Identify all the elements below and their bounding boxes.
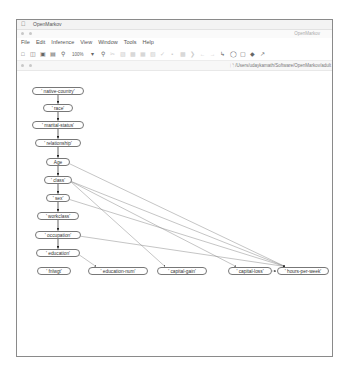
paste-icon[interactable]: ▩ <box>130 51 136 57</box>
apple-icon[interactable]:  <box>21 20 26 29</box>
node-hours-per-week[interactable]: ' hours-per-week' <box>277 267 329 275</box>
menu-view[interactable]: View <box>77 38 95 47</box>
zoom-out-icon[interactable]: ⚲ <box>60 51 66 57</box>
close-network-button[interactable] <box>21 64 24 67</box>
menu-window[interactable]: Window <box>95 38 121 47</box>
node-capital-loss[interactable]: ' capital-loss' <box>228 267 272 275</box>
menu-tools[interactable]: Tools <box>121 38 140 47</box>
menu-bar: File Edit Inference View Window Tools He… <box>17 38 332 47</box>
grid-icon[interactable]: ▧ <box>150 51 156 57</box>
node-sex[interactable]: ' sex' <box>46 194 70 202</box>
menu-edit[interactable]: Edit <box>33 38 48 47</box>
node-education[interactable]: ' education' <box>36 249 80 257</box>
node-relationship[interactable]: ' relationship' <box>35 139 81 147</box>
node-occupation[interactable]: ' occupation' <box>35 231 81 239</box>
chance-node-icon[interactable]: ◯ <box>230 51 236 57</box>
toolbar: □ ◫ ▣ ▤ ⚲ 100% ▾ ⚲ ✂ ▨ ▩ ▦ ▧ ✓ ▪ ▩ ❯ ← →… <box>17 48 332 61</box>
network-path-text: /Users/udaykamath/Software/OpenMarkov/ad… <box>235 63 331 68</box>
menu-inference[interactable]: Inference <box>48 38 77 47</box>
clipboard-icon[interactable]: ▪ <box>170 51 176 57</box>
cut-icon[interactable]: ✂ <box>110 51 116 57</box>
minimize-window-button[interactable] <box>29 32 32 35</box>
network-window-controls <box>21 64 32 67</box>
node-workclass[interactable]: ' workclass' <box>37 212 79 220</box>
menu-file[interactable]: File <box>18 38 33 47</box>
table-icon[interactable]: ▩ <box>180 51 186 57</box>
save-icon[interactable]: ▣ <box>40 51 46 57</box>
utility-node-icon[interactable]: ◆ <box>250 51 256 57</box>
node-education-num[interactable]: ' education-num' <box>88 267 148 275</box>
link-icon[interactable]: ↗ <box>260 51 266 57</box>
node-capital-gain[interactable]: ' capital-gain' <box>157 267 207 275</box>
node-fnlwgt[interactable]: ' fnlwgt' <box>37 267 71 275</box>
network-window-bar[interactable]: 🗎 /Users/udaykamath/Software/OpenMarkov/… <box>17 61 332 71</box>
node-race[interactable]: ' race' <box>43 104 73 112</box>
forward-icon[interactable]: ❯ <box>190 51 196 57</box>
select-icon[interactable]: ↳ <box>220 51 226 57</box>
new-file-icon[interactable]: □ <box>20 51 26 57</box>
decision-node-icon[interactable]: ▢ <box>240 51 246 57</box>
node-age[interactable]: Age <box>46 158 70 166</box>
align-icon[interactable]: ▦ <box>140 51 146 57</box>
app-name[interactable]: OpenMarkov <box>33 20 62 29</box>
app-window:  OpenMarkov OpenMarkov File Edit Infere… <box>16 19 333 357</box>
copy-icon[interactable]: ▨ <box>120 51 126 57</box>
node-native-country[interactable]: ' native-country' <box>32 87 84 95</box>
close-window-button[interactable] <box>21 32 24 35</box>
redo-icon[interactable]: → <box>210 51 216 57</box>
zoom-level-select[interactable]: 100% <box>70 52 86 57</box>
minimize-network-button[interactable] <box>29 64 32 67</box>
node-class[interactable]: ' class' <box>44 176 72 184</box>
window-title-bar[interactable]: OpenMarkov <box>17 30 332 38</box>
mac-menu-bar:  OpenMarkov <box>17 20 332 30</box>
undo-icon[interactable]: ← <box>200 51 206 57</box>
open-folder-icon[interactable]: ◫ <box>30 51 36 57</box>
node-marital-status[interactable]: ' marital-status' <box>32 121 84 129</box>
chevron-down-icon[interactable]: ▾ <box>90 51 96 57</box>
window-controls <box>21 32 32 35</box>
window-title: OpenMarkov <box>294 30 320 38</box>
network-file-path: 🗎 /Users/udaykamath/Software/OpenMarkov/… <box>230 61 331 70</box>
zoom-in-icon[interactable]: ⚲ <box>100 51 106 57</box>
brush-icon[interactable]: ✓ <box>160 51 166 57</box>
menu-help[interactable]: Help <box>140 38 157 47</box>
save-as-icon[interactable]: ▤ <box>50 51 56 57</box>
